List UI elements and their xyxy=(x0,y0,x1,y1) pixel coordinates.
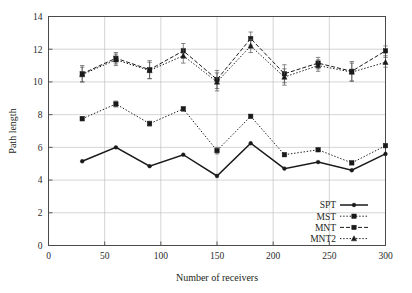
y-tick-label: 6 xyxy=(38,143,43,153)
data-point-spt xyxy=(316,160,320,164)
data-point-mst xyxy=(80,117,84,121)
x-tick-label: 100 xyxy=(154,251,169,261)
x-tick-label: 200 xyxy=(266,251,281,261)
data-point-mst xyxy=(282,153,286,157)
legend-sample-marker-mnt xyxy=(352,225,356,229)
data-point-mst xyxy=(316,148,320,152)
data-point-mst xyxy=(181,107,185,111)
x-axis-title: Number of receivers xyxy=(176,272,258,283)
legend-label-mnt: MNT xyxy=(315,223,336,233)
path-length-line-chart: 02468101214 050100150200250300 Number of… xyxy=(0,0,412,293)
legend-label-spt: SPT xyxy=(320,200,337,210)
data-point-mnt xyxy=(383,49,387,53)
x-tick-label: 250 xyxy=(322,251,337,261)
legend-sample-marker-spt xyxy=(352,203,356,207)
y-tick-label: 2 xyxy=(38,208,43,218)
data-point-spt xyxy=(148,164,152,168)
data-point-spt xyxy=(80,159,84,163)
x-tick-label: 300 xyxy=(378,251,393,261)
data-point-spt xyxy=(215,174,219,178)
chart-figure: 02468101214 050100150200250300 Number of… xyxy=(0,0,412,293)
data-point-spt xyxy=(249,141,253,145)
y-tick-label: 8 xyxy=(38,110,43,120)
y-tick-label: 12 xyxy=(33,45,43,55)
legend-sample-marker-mst xyxy=(352,214,356,218)
data-point-spt xyxy=(384,152,388,156)
data-point-mst xyxy=(147,121,151,125)
data-point-spt xyxy=(283,167,287,171)
y-tick-label: 4 xyxy=(38,175,43,185)
x-tick-label: 50 xyxy=(100,251,110,261)
data-point-mst xyxy=(350,161,354,165)
data-point-mst xyxy=(383,144,387,148)
x-tick-label: 0 xyxy=(46,251,51,261)
y-tick-label: 0 xyxy=(38,241,43,251)
data-point-mst xyxy=(215,148,219,152)
x-tick-label: 150 xyxy=(210,251,225,261)
y-tick-label: 14 xyxy=(33,12,43,22)
legend-label-mst: MST xyxy=(316,212,336,222)
y-tick-label: 10 xyxy=(33,77,43,87)
chart-background xyxy=(0,0,412,293)
data-point-mst xyxy=(249,114,253,118)
data-point-spt xyxy=(350,168,354,172)
data-point-mst xyxy=(114,102,118,106)
data-point-spt xyxy=(114,145,118,149)
legend-label-mnt2: MNT2 xyxy=(310,234,336,244)
data-point-spt xyxy=(181,153,185,157)
y-axis-title: Path length xyxy=(7,108,18,153)
